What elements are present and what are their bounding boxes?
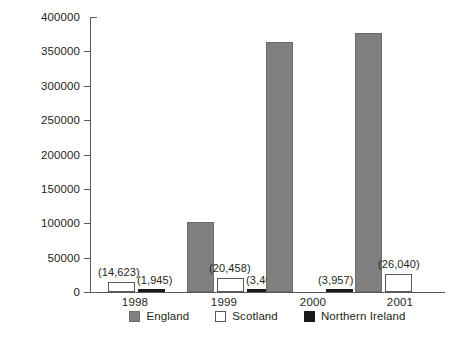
x-tick-label-2001: 2001 — [355, 296, 445, 308]
y-tick-label-0: 0 — [0, 287, 80, 298]
legend-swatch-northern-ireland-icon — [304, 311, 315, 322]
y-tick-label-50000: 50000 — [0, 253, 80, 264]
y-tick-label-250000: 250000 — [0, 115, 80, 126]
plot-area: (14,623) (1,945) (20,458) (3,407) (3,957… — [90, 17, 445, 292]
legend-label-scotland: Scotland — [232, 310, 278, 322]
y-tick-label-400000: 400000 — [0, 12, 80, 23]
bar-label-1998-northern-ireland: (1,945) — [137, 275, 173, 286]
y-tick-label-350000: 350000 — [0, 46, 80, 57]
legend-swatch-england-icon — [129, 311, 140, 322]
bar-1999-england — [187, 222, 214, 292]
bar-chart: 400000 350000 300000 250000 200000 15000… — [0, 0, 466, 343]
bar-1998-scotland — [108, 282, 135, 292]
legend-item-scotland: Scotland — [215, 310, 278, 322]
x-axis-line — [90, 292, 445, 293]
x-tick-label-1998: 1998 — [90, 296, 180, 308]
legend-label-northern-ireland: Northern Ireland — [321, 310, 406, 322]
y-tick-mark-0 — [84, 292, 90, 293]
bar-1998-northern-ireland — [138, 289, 165, 292]
y-tick-label-100000: 100000 — [0, 218, 80, 229]
bar-2001-england — [355, 33, 382, 292]
bar-label-1999-scotland: (20,458) — [209, 263, 251, 274]
bar-1999-scotland — [217, 278, 244, 292]
bar-2000-england — [266, 42, 293, 292]
bar-2000-northern-ireland — [326, 289, 353, 292]
bar-label-2001-scotland: (26,040) — [378, 259, 420, 270]
bar-label-1998-scotland: (14,623) — [98, 267, 140, 278]
x-tick-label-1999: 1999 — [179, 296, 269, 308]
x-tick-label-2000: 2000 — [268, 296, 358, 308]
y-tick-label-300000: 300000 — [0, 81, 80, 92]
chart-legend: England Scotland Northern Ireland — [90, 310, 445, 322]
legend-item-northern-ireland: Northern Ireland — [304, 310, 406, 322]
y-tick-label-200000: 200000 — [0, 150, 80, 161]
bar-label-2000-northern-ireland: (3,957) — [318, 275, 354, 286]
legend-item-england: England — [129, 310, 189, 322]
legend-swatch-scotland-icon — [215, 311, 226, 322]
bar-2001-scotland — [385, 274, 412, 292]
legend-label-england: England — [146, 310, 189, 322]
y-tick-label-150000: 150000 — [0, 184, 80, 195]
